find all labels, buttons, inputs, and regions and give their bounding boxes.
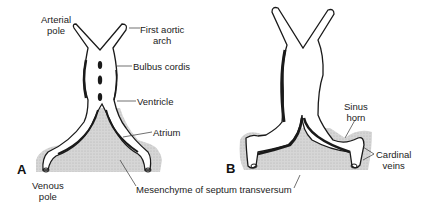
label-line: pole [41, 25, 71, 36]
label-line: veins [376, 160, 411, 171]
label-line: Sinus [344, 101, 368, 112]
label-line: First aortic [140, 24, 184, 35]
label-line: Arterial [41, 14, 71, 25]
label-ventricle: Ventricle [137, 96, 173, 107]
label-sinus-horn: Sinus horn [344, 101, 368, 123]
label-atrium: Atrium [153, 127, 180, 138]
label-bulbus-cordis: Bulbus cordis [133, 61, 190, 72]
label-mesenchyme: Mesenchyme of septum transversum [136, 184, 292, 195]
label-cardinal-veins: Cardinal veins [376, 149, 411, 171]
label-line: arch [140, 35, 184, 46]
label-line: pole [32, 191, 64, 202]
panel-label-a: A [17, 162, 26, 177]
label-line: horn [344, 112, 368, 123]
label-venous-pole: Venous pole [32, 180, 64, 202]
label-arterial-pole: Arterial pole [41, 14, 71, 36]
panel-label-b: B [226, 161, 235, 176]
label-first-aortic-arch: First aortic arch [140, 24, 184, 46]
label-line: Cardinal [376, 149, 411, 160]
label-line: Venous [32, 180, 64, 191]
